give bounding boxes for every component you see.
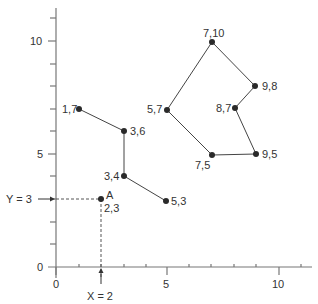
label-5-7: 5,7 <box>147 103 162 115</box>
point-9-8 <box>252 83 258 89</box>
label-8-7: 8,7 <box>216 102 231 114</box>
arrow-x2-head-icon <box>99 268 104 273</box>
label-9-5: 9,5 <box>262 148 277 160</box>
point-3-6 <box>121 128 127 134</box>
y-tick-label-5: 5 <box>37 148 43 160</box>
point-5-7 <box>164 107 170 113</box>
label-3-6: 3,6 <box>130 125 145 137</box>
label-9-8: 9,8 <box>262 80 277 92</box>
label-5-3: 5,3 <box>171 195 186 207</box>
open-path-line <box>79 109 166 201</box>
annotation-arrows <box>38 197 104 285</box>
point-8-7 <box>232 105 238 111</box>
arrow-y3-head-icon <box>50 197 55 202</box>
annotation-x2: X = 2 <box>87 290 113 302</box>
x-tick-label-5: 5 <box>163 278 169 290</box>
coordinate-plot: 10 5 0 0 5 10 Y = 3 X = 2 1,7 3,6 3,4 5,… <box>0 0 318 304</box>
x-tick-label-10: 10 <box>272 278 284 290</box>
label-1-7: 1,7 <box>62 103 77 115</box>
point-3-4 <box>121 173 127 179</box>
label-7-10: 7,10 <box>203 27 224 39</box>
y-tick-label-0: 0 <box>37 261 43 273</box>
point-9-5 <box>253 151 259 157</box>
y-tick-label-10: 10 <box>30 35 42 47</box>
label-3-4: 3,4 <box>104 170 119 182</box>
point-7-5 <box>209 152 215 158</box>
label-7-5: 7,5 <box>195 159 210 171</box>
point-5-3 <box>163 198 169 204</box>
point-7-10 <box>209 39 215 45</box>
label-2-3: 2,3 <box>104 202 119 214</box>
x-tick-label-0: 0 <box>53 278 59 290</box>
label-A: A <box>106 189 114 201</box>
axes <box>48 8 312 278</box>
closed-polygon-line <box>167 42 256 155</box>
annotation-y3: Y = 3 <box>6 193 32 205</box>
